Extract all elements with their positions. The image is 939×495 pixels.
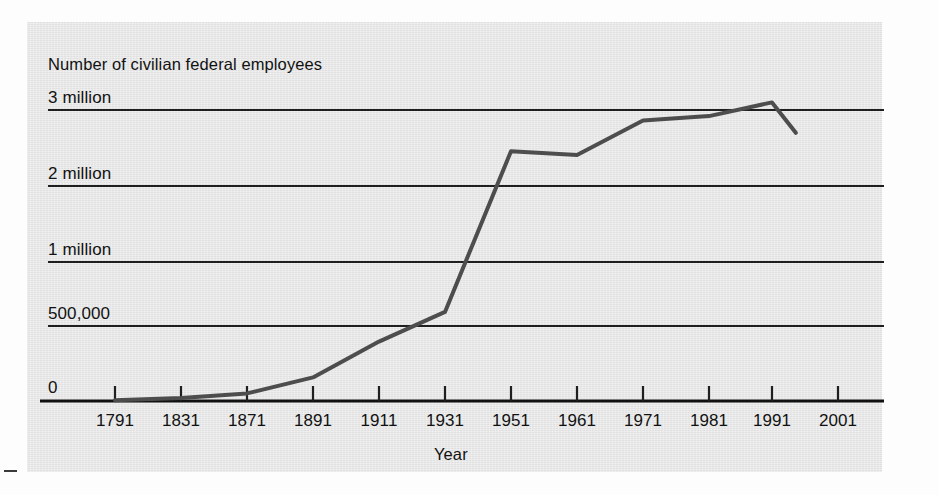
chart-screenshot: Number of civilian federal employees 3 m… xyxy=(0,0,939,495)
gridlines xyxy=(48,110,884,326)
plot-area xyxy=(0,0,939,495)
data-line-civilian-federal-employees xyxy=(115,102,796,400)
